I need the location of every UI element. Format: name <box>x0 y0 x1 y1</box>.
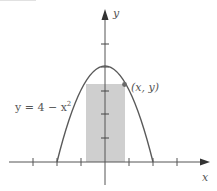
curve-equation-exponent: 2 <box>67 100 71 108</box>
y-axis-label: y <box>112 7 120 20</box>
curve-equation-label: y = 4 − x2 <box>14 100 71 114</box>
y-axis-arrowhead-icon <box>102 9 109 20</box>
parabola-figure: (x, y) y x y = 4 − x2 <box>0 0 217 191</box>
x-axis-arrowhead-icon <box>200 159 210 166</box>
point-marker <box>122 82 127 87</box>
x-axis-label: x <box>202 171 209 184</box>
curve-equation-base: y = 4 − x <box>14 101 68 114</box>
point-label: (x, y) <box>131 81 159 94</box>
